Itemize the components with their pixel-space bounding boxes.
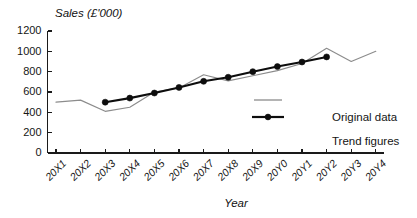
legend-marker-trend-figures (265, 114, 271, 120)
x-axis-tick-label: 20X1 (42, 157, 69, 184)
x-axis-tick-label: 20X2 (66, 157, 93, 184)
x-axis-tick-label: 20X9 (239, 157, 266, 184)
y-axis-tick-label: 800 (23, 65, 41, 77)
y-axis-tick-labels: 020040060080010001200 (17, 24, 41, 158)
y-axis-tick-label: 0 (35, 146, 41, 158)
sales-trend-line-chart: Sales (£'000) 020040060080010001200 20X1… (0, 0, 417, 218)
x-axis-tick-label: 20Y3 (337, 157, 364, 184)
x-axis-tick-label: 20X7 (189, 156, 216, 183)
x-axis-tick-label: 20X5 (140, 157, 167, 184)
x-axis-tick-label: 20X4 (116, 157, 143, 184)
data-point-marker (299, 59, 305, 65)
legend-label-trend-figures: Trend figures (332, 135, 400, 147)
chart-figure: Sales (£'000) 020040060080010001200 20X1… (0, 0, 417, 218)
x-axis-tick-label: 20X3 (91, 157, 118, 184)
data-point-marker (102, 99, 108, 105)
x-axis-tick-label: 20Y1 (288, 157, 315, 184)
x-axis-tick-label: 20Y4 (362, 157, 389, 184)
data-point-marker (250, 69, 256, 75)
x-axis-tick-label: 20Y2 (312, 157, 339, 184)
data-point-marker (324, 54, 330, 60)
data-point-marker (274, 64, 280, 70)
y-axis-tick-label: 1200 (17, 24, 41, 36)
data-point-marker (127, 95, 133, 101)
x-axis-tick-label: 20Y0 (263, 157, 290, 184)
y-axis-tick-label: 200 (23, 126, 41, 138)
x-axis-tick-labels: 20X120X220X320X420X520X620X720X820X920Y0… (42, 156, 388, 183)
data-point-marker (225, 74, 231, 80)
x-axis-tick-label: 20X6 (165, 157, 192, 184)
x-axis-title: Year (224, 197, 249, 209)
x-axis-tick-label: 20X8 (214, 157, 241, 184)
data-point-marker (201, 78, 207, 84)
chart-legend: Original data Trend figures (252, 100, 400, 147)
y-axis-tick-label: 1000 (17, 45, 41, 57)
legend-label-original-data: Original data (332, 111, 398, 123)
data-point-marker (151, 90, 157, 96)
chart-title: Sales (£'000) (55, 7, 123, 19)
y-axis-tick-label: 400 (23, 106, 41, 118)
y-axis-tick-label: 600 (23, 85, 41, 97)
series-line-trend-figures (105, 57, 326, 102)
data-point-marker (176, 84, 182, 90)
